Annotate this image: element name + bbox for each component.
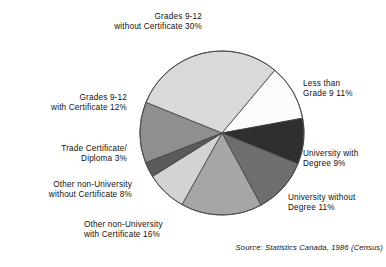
slice-label-less-than-grade-9: Less than Grade 9 11% <box>303 79 383 100</box>
slice-label-line2: with Certificate 16% <box>84 230 216 240</box>
slice-label-line2: without Certificate 8% <box>2 190 132 200</box>
slice-label-line1: Other non-University <box>84 220 163 229</box>
pie-slice-group <box>140 51 304 215</box>
pie-chart-figure: Grades 9-12 without Certificate 30% Less… <box>0 0 386 267</box>
slice-label-line1: Grades 9-12 <box>155 12 203 21</box>
slice-label-grades-9-12-without-certificate: Grades 9-12 without Certificate 30% <box>72 12 202 33</box>
slice-label-other-non-university-with-certificate: Other non-University with Certificate 16… <box>84 220 216 241</box>
slice-label-university-without-degree: University without Degree 11% <box>288 193 384 214</box>
slice-label-grades-9-12-with-certificate: Grades 9-12 with Certificate 12% <box>8 93 127 114</box>
slice-label-university-with-degree: University with Degree 9% <box>303 149 385 170</box>
slice-label-line2: Grade 9 11% <box>303 89 383 99</box>
slice-label-line2: Diploma 3% <box>8 154 127 164</box>
slice-label-line1: Other non-University <box>53 180 132 189</box>
slice-label-line2: with Certificate 12% <box>8 103 127 113</box>
slice-label-line1: Grades 9-12 <box>80 93 128 102</box>
slice-label-other-non-university-without-certificate: Other non-University without Certificate… <box>2 180 132 201</box>
slice-label-line2: Degree 11% <box>288 203 384 213</box>
slice-label-line1: Trade Certificate/ <box>61 144 127 153</box>
slice-label-line2: Degree 9% <box>303 159 385 169</box>
slice-label-line1: Less than <box>303 79 340 88</box>
slice-label-line1: University without <box>288 193 355 202</box>
source-note: Source: Statistics Canada, 1986 (Census) <box>213 243 383 252</box>
slice-label-line1: University with <box>303 149 358 158</box>
slice-label-line2: without Certificate 30% <box>72 22 202 32</box>
slice-label-trade-certificate-diploma: Trade Certificate/ Diploma 3% <box>8 144 127 165</box>
